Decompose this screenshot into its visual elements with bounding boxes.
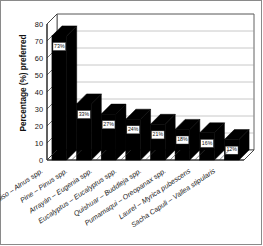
bar-2: 33% (77, 94, 102, 160)
bar-front-face (175, 129, 190, 160)
bar-chart-plot: 0102030405060708073%Aliso – Alnus spp.33… (0, 0, 263, 246)
bar-6: 18% (175, 119, 200, 160)
bar-value-label: 16% (202, 140, 213, 146)
bar-value-label: 24% (128, 126, 139, 132)
bar-value-label: 27% (103, 121, 114, 127)
y-tick-label: 20 (35, 122, 43, 131)
bar-side-face (67, 26, 77, 160)
bar-1: 73% (52, 26, 77, 160)
bar-front-face (52, 36, 67, 160)
bar-value-label: 21% (153, 131, 164, 137)
bar-value-label: 73% (54, 43, 65, 49)
y-tick-label: 10 (35, 139, 43, 148)
bar-front-face (150, 124, 165, 160)
bar-value-label: 33% (79, 111, 90, 117)
y-tick-label: 50 (35, 71, 43, 80)
y-tick-label: 70 (35, 37, 43, 46)
y-tick-label: 0 (39, 156, 43, 165)
bar-side-face (91, 94, 101, 160)
y-tick-label: 60 (35, 54, 43, 63)
y-tick-label: 80 (35, 20, 43, 29)
bar-5: 21% (150, 114, 175, 160)
bar-4: 24% (126, 109, 151, 160)
y-tick-label: 40 (35, 88, 43, 97)
bar-value-label: 18% (177, 136, 188, 142)
chart-figure: Percentage (%) preferred 010203040506070… (0, 0, 263, 246)
y-tick-label: 30 (35, 105, 43, 114)
